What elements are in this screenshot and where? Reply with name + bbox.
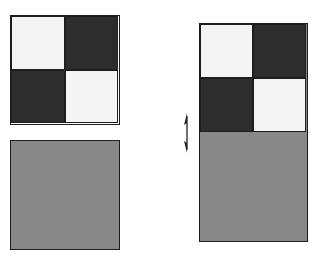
stacked-cell-bottom-right [253,78,306,132]
stacked-cell-top-right [253,24,306,78]
checker-cell-bottom-right [65,70,118,123]
checker-cell-top-right [65,16,118,70]
checker-cell-bottom-left [11,70,65,123]
checker-cell-top-left [11,16,65,70]
right-stacked-rect [199,23,308,242]
left-checker-square [10,15,120,125]
stacked-cell-bottom-left [200,78,253,132]
left-gray-square [10,140,120,250]
vertical-double-arrow-icon [180,112,194,154]
stacked-cell-top-left [200,24,253,78]
